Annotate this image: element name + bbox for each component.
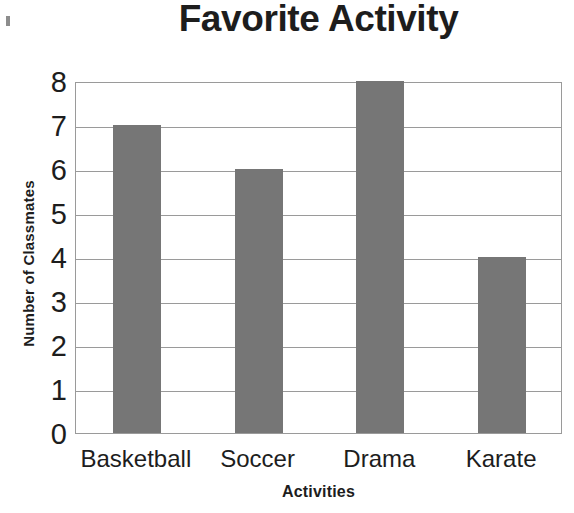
bars-group	[76, 83, 561, 433]
y-axis-tick-label: 3	[34, 288, 67, 317]
y-axis-tick-label: 8	[34, 68, 67, 97]
scan-artifact-mark	[6, 16, 10, 26]
bar	[235, 169, 283, 433]
y-axis-tick-label: 4	[34, 244, 67, 273]
y-axis-tick-label: 2	[34, 332, 67, 361]
y-axis-tick-label: 0	[34, 420, 67, 449]
bar	[478, 257, 526, 433]
bar	[356, 81, 404, 433]
y-axis-tick-label: 6	[34, 156, 67, 185]
x-axis-tick-label: Karate	[440, 444, 562, 474]
bar	[113, 125, 161, 433]
bar-chart: Favorite Activity Number of Classmates 8…	[0, 0, 574, 513]
y-axis-tick-label: 5	[34, 200, 67, 229]
y-axis-tick-label: 1	[34, 376, 67, 405]
x-axis-tick-labels: BasketballSoccerDramaKarate	[75, 444, 562, 478]
plot-area	[75, 82, 562, 434]
x-axis-tick-label: Drama	[319, 444, 441, 474]
y-axis-tick-label: 7	[34, 112, 67, 141]
y-axis-tick-labels: 876543210	[34, 82, 67, 434]
x-axis-tick-label: Basketball	[75, 444, 197, 474]
x-axis-tick-label: Soccer	[197, 444, 319, 474]
x-axis-title: Activities	[75, 483, 562, 501]
chart-title: Favorite Activity	[75, 0, 562, 40]
